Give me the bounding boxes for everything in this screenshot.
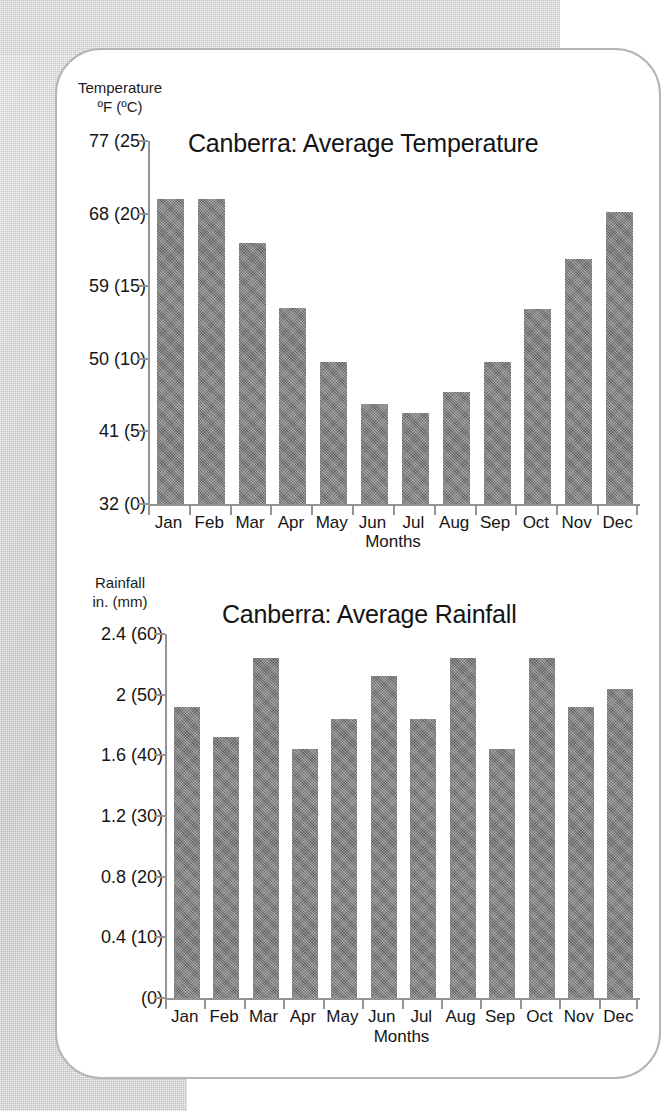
x-tick-mark bbox=[480, 1000, 482, 1009]
x-tick-text: Jul bbox=[410, 1007, 432, 1026]
y-tick-label: 2 (50) bbox=[0, 684, 172, 705]
x-tick-mark bbox=[165, 1000, 167, 1009]
x-tick-label: Mar bbox=[244, 1000, 283, 1027]
bar-jun bbox=[371, 676, 397, 998]
x-tick-label: Feb bbox=[204, 1000, 243, 1027]
x-tick-mark bbox=[520, 1000, 522, 1009]
bar-slot bbox=[443, 634, 482, 998]
y-tick-mark bbox=[155, 694, 165, 696]
y-tick-mark bbox=[155, 633, 165, 635]
bar-slot bbox=[404, 634, 443, 998]
bar-slot bbox=[246, 634, 285, 998]
rainfall-plot-area bbox=[165, 634, 640, 1000]
x-tick-text: Jun bbox=[368, 1007, 395, 1026]
rainfall-axis-header: Rainfall in. (mm) bbox=[62, 573, 178, 611]
x-tick-mark bbox=[599, 1000, 601, 1009]
x-tick-label: May bbox=[323, 1000, 362, 1027]
x-tick-label: Jun bbox=[362, 1000, 401, 1027]
x-tick-mark bbox=[441, 1000, 443, 1009]
y-tick-label: 1.2 (30) bbox=[0, 806, 172, 827]
bar-slot bbox=[325, 634, 364, 998]
bar-slot bbox=[364, 634, 403, 998]
bar-mar bbox=[253, 658, 279, 998]
bar-aug bbox=[450, 658, 476, 998]
bar-oct bbox=[529, 658, 555, 998]
bar-jan bbox=[174, 707, 200, 998]
rainfall-x-labels: JanFebMarAprMayJunJulAugSepOctNovDec bbox=[165, 1000, 638, 1027]
bar-slot bbox=[482, 634, 521, 998]
x-tick-mark bbox=[402, 1000, 404, 1009]
x-tick-text: Dec bbox=[603, 1007, 633, 1026]
x-tick-mark bbox=[362, 1000, 364, 1009]
bar-slot bbox=[561, 634, 600, 998]
y-tick-mark bbox=[155, 997, 165, 999]
x-tick-label: Nov bbox=[559, 1000, 598, 1027]
rainfall-axis-header-line1: Rainfall bbox=[62, 573, 178, 592]
x-tick-mark bbox=[244, 1000, 246, 1009]
x-tick-mark bbox=[636, 1000, 638, 1009]
x-tick-mark bbox=[283, 1000, 285, 1009]
rainfall-chart-title: Canberra: Average Rainfall bbox=[222, 600, 517, 629]
x-tick-label: Jan bbox=[165, 1000, 204, 1027]
x-tick-mark bbox=[204, 1000, 206, 1009]
x-tick-text: Feb bbox=[209, 1007, 238, 1026]
x-tick-text: Apr bbox=[290, 1007, 316, 1026]
rainfall-x-axis-title: Months bbox=[165, 1027, 638, 1047]
y-tick-label: (0) bbox=[0, 988, 172, 1009]
rainfall-chart: Rainfall in. (mm) Canberra: Average Rain… bbox=[0, 0, 671, 1060]
x-tick-text: Mar bbox=[249, 1007, 278, 1026]
bar-jul bbox=[410, 719, 436, 998]
paper-texture-bottom bbox=[0, 1078, 187, 1111]
bar-may bbox=[331, 719, 357, 998]
x-tick-label: Dec bbox=[599, 1000, 638, 1027]
x-tick-text: May bbox=[326, 1007, 358, 1026]
y-tick-mark bbox=[155, 754, 165, 756]
x-tick-label: Jul bbox=[402, 1000, 441, 1027]
x-tick-mark bbox=[323, 1000, 325, 1009]
bar-slot bbox=[522, 634, 561, 998]
x-tick-label: Aug bbox=[441, 1000, 480, 1027]
bar-apr bbox=[292, 749, 318, 998]
y-tick-label: 1.6 (40) bbox=[0, 745, 172, 766]
bar-sep bbox=[489, 749, 515, 998]
y-tick-label: 2.4 (60) bbox=[0, 624, 172, 645]
y-tick-mark bbox=[155, 876, 165, 878]
bar-feb bbox=[213, 737, 239, 998]
bar-slot bbox=[206, 634, 245, 998]
x-tick-label: Oct bbox=[520, 1000, 559, 1027]
x-tick-text: Nov bbox=[564, 1007, 594, 1026]
x-tick-label: Sep bbox=[480, 1000, 519, 1027]
bar-slot bbox=[285, 634, 324, 998]
y-tick-mark bbox=[155, 936, 165, 938]
rainfall-axis-header-line2: in. (mm) bbox=[62, 592, 178, 611]
x-tick-text: Oct bbox=[526, 1007, 552, 1026]
bar-nov bbox=[568, 707, 594, 998]
bar-dec bbox=[607, 689, 633, 998]
rainfall-bars bbox=[167, 634, 640, 998]
x-tick-text: Aug bbox=[446, 1007, 476, 1026]
bar-slot bbox=[167, 634, 206, 998]
x-tick-mark bbox=[559, 1000, 561, 1009]
bar-slot bbox=[601, 634, 640, 998]
x-tick-text: Sep bbox=[485, 1007, 515, 1026]
y-tick-mark bbox=[155, 815, 165, 817]
x-tick-label: Apr bbox=[283, 1000, 322, 1027]
x-tick-text: Jan bbox=[171, 1007, 198, 1026]
y-tick-label: 0.4 (10) bbox=[0, 927, 172, 948]
y-tick-label: 0.8 (20) bbox=[0, 866, 172, 887]
